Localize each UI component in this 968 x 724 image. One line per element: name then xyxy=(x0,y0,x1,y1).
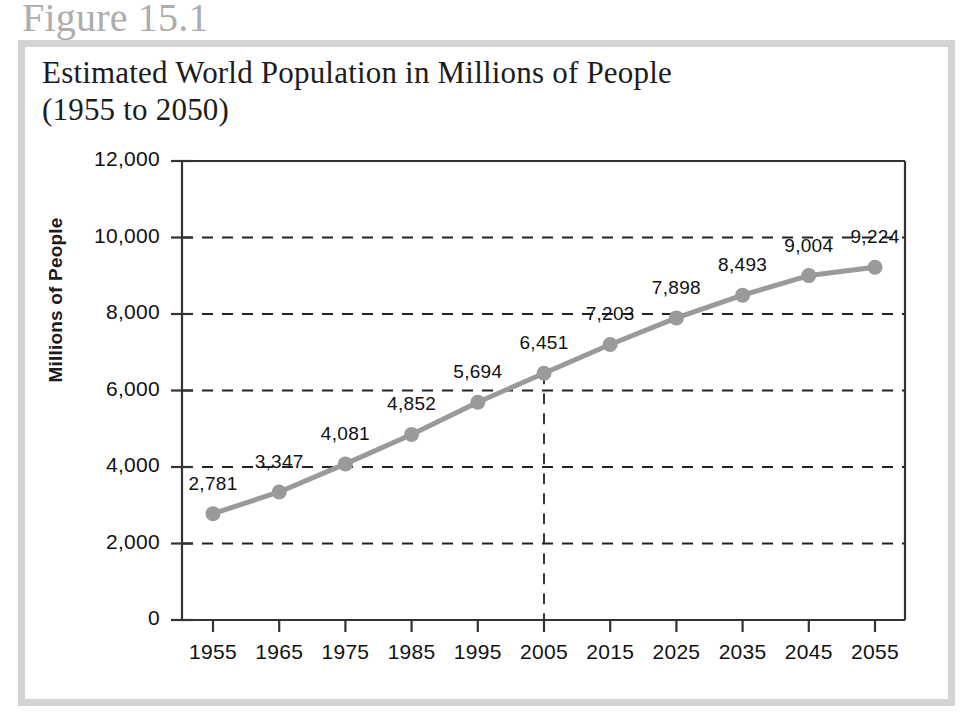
data-point-label: 4,852 xyxy=(372,393,452,415)
x-tick-label: 2055 xyxy=(835,640,915,664)
y-tick-label: 6,000 xyxy=(68,377,160,401)
data-point-label: 5,694 xyxy=(438,361,518,383)
data-point-label: 8,493 xyxy=(703,254,783,276)
data-point-marker xyxy=(338,456,353,471)
data-point-marker xyxy=(603,337,618,352)
data-point-label: 9,224 xyxy=(835,226,915,248)
data-point-marker xyxy=(801,268,816,283)
y-tick-label: 2,000 xyxy=(68,530,160,554)
plot-area: Millions of People 02,0004,0006,0008,000… xyxy=(0,0,968,724)
data-point-marker xyxy=(868,260,883,275)
data-point-label: 7,898 xyxy=(636,277,716,299)
data-point-label: 4,081 xyxy=(305,423,385,445)
data-point-marker xyxy=(537,366,552,381)
data-point-marker xyxy=(404,427,419,442)
data-point-marker xyxy=(735,288,750,303)
data-point-marker xyxy=(470,395,485,410)
y-tick-label: 8,000 xyxy=(68,300,160,324)
y-tick-label: 4,000 xyxy=(68,453,160,477)
x-ticks-group xyxy=(213,620,875,632)
y-tick-label: 0 xyxy=(68,606,160,630)
data-point-marker xyxy=(272,484,287,499)
figure-number-label: Figure 15.1 xyxy=(22,0,209,40)
figure-root: Figure 15.1 Estimated World Population i… xyxy=(0,0,968,724)
data-point-label: 7,203 xyxy=(570,303,650,325)
data-point-marker xyxy=(669,310,684,325)
y-tick-label: 12,000 xyxy=(68,147,160,171)
data-point-label: 2,781 xyxy=(173,473,253,495)
data-point-label: 6,451 xyxy=(504,332,584,354)
y-tick-label: 10,000 xyxy=(68,224,160,248)
data-point-marker xyxy=(206,506,221,521)
data-point-label: 3,347 xyxy=(239,451,319,473)
